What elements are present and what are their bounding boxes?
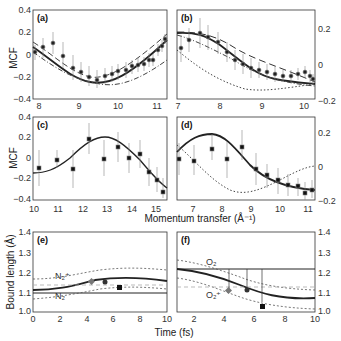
svg-text:10: 10 (275, 204, 285, 214)
svg-text:8: 8 (36, 101, 41, 111)
svg-text:0.2: 0.2 (318, 128, 331, 138)
panel-a: (a) 0.40.20−0.2−0.4 891011 (8, 5, 167, 111)
svg-text:−0.2: −0.2 (13, 72, 31, 82)
svg-text:−0.4: −0.4 (13, 94, 31, 104)
mcf-label-mid: MCF (8, 147, 19, 169)
svg-text:9: 9 (76, 101, 81, 111)
svg-text:10: 10 (113, 101, 123, 111)
momentum-xlabel: Momentum transfer (Å⁻¹) (144, 212, 255, 224)
panel-e: (e) 1.41.31.21.11.0 0246810 N₂⁺ N₂ Bound… (4, 227, 172, 324)
svg-text:8: 8 (217, 101, 222, 111)
svg-text:4: 4 (84, 314, 89, 324)
svg-text:10: 10 (299, 101, 309, 111)
mcf-label-top: MCF (8, 47, 19, 69)
panel-b-label: (b) (181, 13, 193, 23)
svg-text:10: 10 (29, 204, 39, 214)
svg-text:0: 0 (318, 60, 323, 70)
svg-text:9: 9 (259, 101, 264, 111)
bond-length-ylabel: Bound length (Å) (4, 234, 16, 309)
svg-text:6: 6 (110, 314, 115, 324)
svg-text:0: 0 (318, 162, 323, 172)
svg-text:−0.4: −0.4 (13, 194, 31, 204)
svg-text:0.2: 0.2 (318, 24, 331, 34)
svg-text:0.4: 0.4 (18, 5, 31, 15)
svg-text:2: 2 (57, 314, 62, 324)
svg-text:1.2: 1.2 (18, 268, 31, 278)
svg-text:1.4: 1.4 (18, 227, 31, 237)
panel-f: (f) 1.41.31.21.11.0 246810 O₂ O₂⁺ (177, 227, 331, 324)
time-xlabel: Time (fs) (154, 327, 193, 338)
svg-text:1.3: 1.3 (18, 248, 31, 258)
svg-text:1.0: 1.0 (18, 306, 31, 316)
o2-annotation: O₂ (206, 257, 217, 267)
n2-annotation: N₂ (55, 291, 65, 301)
svg-text:0: 0 (26, 153, 31, 163)
o2-plus-annotation: O₂⁺ (206, 290, 222, 300)
svg-text:1.1: 1.1 (318, 288, 331, 298)
svg-text:1.4: 1.4 (318, 227, 331, 237)
panel-d: (d) 0.20−0.2 7891011 (177, 117, 336, 214)
svg-text:14: 14 (127, 204, 137, 214)
svg-text:8: 8 (282, 314, 287, 324)
panel-f-label: (f) (181, 235, 190, 245)
svg-text:1.2: 1.2 (318, 268, 331, 278)
svg-text:7: 7 (175, 101, 180, 111)
svg-text:10: 10 (310, 314, 320, 324)
svg-text:0.2: 0.2 (18, 27, 31, 37)
svg-text:0: 0 (30, 314, 35, 324)
panel-b: (b) 0.20−0.2 78910 (175, 10, 335, 111)
svg-text:0.4: 0.4 (18, 112, 31, 122)
svg-text:−0.2: −0.2 (13, 173, 31, 183)
svg-text:1.1: 1.1 (18, 288, 31, 298)
panel-c-label: (c) (37, 120, 48, 130)
svg-text:8: 8 (137, 314, 142, 324)
svg-text:13: 13 (102, 204, 112, 214)
svg-text:0: 0 (26, 50, 31, 60)
svg-text:−0.2: −0.2 (318, 196, 336, 206)
svg-text:4: 4 (221, 314, 226, 324)
svg-text:1.3: 1.3 (318, 248, 331, 258)
n2-plus-annotation: N₂⁺ (55, 271, 70, 281)
svg-text:12: 12 (78, 204, 88, 214)
svg-text:11: 11 (303, 204, 312, 214)
svg-text:−0.2: −0.2 (318, 96, 336, 106)
panel-e-label: (e) (37, 235, 48, 245)
panel-c: (c) 0.40.20−0.2−0.4 101112131415 MCF (8, 112, 167, 214)
figure: (a) 0.40.20−0.2−0.4 891011 (0, 0, 341, 341)
svg-text:11: 11 (152, 101, 161, 111)
svg-text:6: 6 (251, 314, 256, 324)
svg-text:0.2: 0.2 (18, 132, 31, 142)
panel-d-label: (d) (181, 120, 193, 130)
svg-text:2: 2 (191, 314, 196, 324)
svg-text:10: 10 (162, 314, 172, 324)
svg-text:11: 11 (53, 204, 62, 214)
panel-a-label: (a) (37, 13, 48, 23)
